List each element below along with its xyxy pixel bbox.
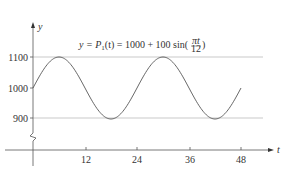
y-tick-label: 900: [13, 113, 28, 124]
x-axis-label: t: [277, 144, 280, 155]
title-mid: (t) = 1000 + 100 sin(: [105, 39, 189, 51]
title-lhs: y = P: [78, 39, 101, 50]
y-axis-label: y: [37, 21, 43, 32]
title-end: ): [202, 39, 205, 51]
x-tick-label: 48: [236, 154, 246, 165]
y-tick-label: 1100: [8, 52, 28, 63]
x-axis-arrow-icon: [268, 148, 274, 152]
y-axis-arrow-icon: [31, 22, 35, 28]
y-ticks: 1100 1000 900: [8, 52, 33, 124]
x-tick-label: 12: [81, 154, 91, 165]
chart: y t 1100 1000 900 12 24 36 48 y = P1(t) …: [0, 0, 285, 175]
title-frac-den: 12: [191, 43, 201, 54]
chart-title: y = P1(t) = 1000 + 100 sin( πt 12 ): [78, 35, 205, 54]
x-tick-label: 24: [132, 154, 142, 165]
svg-text:y = P1(t) = 1000 + 100 sin(: y = P1(t) = 1000 + 100 sin(: [78, 39, 189, 52]
x-tick-label: 36: [185, 154, 195, 165]
data-series-line: [33, 57, 241, 119]
axis-break-icon: [30, 133, 36, 141]
y-tick-label: 1000: [8, 83, 28, 94]
